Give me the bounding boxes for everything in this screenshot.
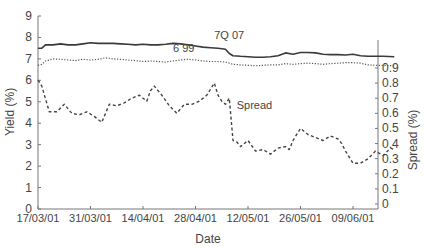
y-tick-label: 4 xyxy=(25,116,32,130)
y2-tick-label: 0.8 xyxy=(382,76,399,90)
x-axis-label: Date xyxy=(195,232,221,246)
yield-spread-chart: 012345678900.10.20.30.40.50.60.70.80.917… xyxy=(0,0,425,249)
7q-07-label: 7Q 07 xyxy=(214,29,244,41)
y2-tick-label: 0.7 xyxy=(382,91,399,105)
data-lines xyxy=(38,43,394,163)
chart-canvas: 012345678900.10.20.30.40.50.60.70.80.917… xyxy=(0,0,425,249)
7q-07-line xyxy=(38,43,394,57)
spread-line xyxy=(38,80,394,163)
y2-tick-label: 0.1 xyxy=(382,182,399,196)
y-tick-label: 1 xyxy=(25,181,32,195)
y2-tick-label: 0.9 xyxy=(382,61,399,75)
y-tick-label: 6 xyxy=(25,73,32,87)
x-tick-label: 17/03/01 xyxy=(17,212,60,224)
x-tick-label: 31/03/01 xyxy=(69,212,112,224)
y2-tick-label: 0 xyxy=(382,197,389,211)
y-tick-label: 5 xyxy=(25,95,32,109)
x-tick-label: 14/04/01 xyxy=(122,212,165,224)
x-tick-label: 09/06/01 xyxy=(332,212,375,224)
y-tick-label: 9 xyxy=(25,9,32,23)
x-tick-label: 26/05/01 xyxy=(279,212,322,224)
y2-tick-label: 0.6 xyxy=(382,106,399,120)
6-99-label: 6 99 xyxy=(173,42,194,54)
axes: 012345678900.10.20.30.40.50.60.70.80.917… xyxy=(17,9,399,224)
spread-label: Spread xyxy=(237,99,272,111)
6-99-line xyxy=(38,58,394,66)
y-tick-label: 3 xyxy=(25,138,32,152)
series-labels: 7Q 076 99Spread xyxy=(173,29,272,111)
y-tick-label: 8 xyxy=(25,30,32,44)
x-tick-label: 12/05/01 xyxy=(227,212,270,224)
y2-tick-label: 0.2 xyxy=(382,167,399,181)
y2-axis-label: Spread (%) xyxy=(406,110,420,171)
y2-tick-label: 0.5 xyxy=(382,121,399,135)
y-tick-label: 2 xyxy=(25,159,32,173)
y-tick-label: 7 xyxy=(25,52,32,66)
y-axis-label: Yield (%) xyxy=(3,88,17,136)
x-tick-label: 28/04/01 xyxy=(174,212,217,224)
